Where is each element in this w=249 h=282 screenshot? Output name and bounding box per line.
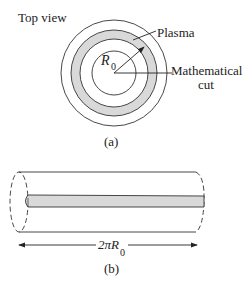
caption-a: (a) [104,134,118,149]
length-subscript: 0 [120,247,125,258]
diagram-canvas: Top view Plasma R 0 Mathematical cut (a)… [0,0,249,282]
plasma-pointer-line [133,31,156,40]
caption-b: (b) [104,261,119,276]
cut-label-line1: Mathematical [171,63,243,78]
top-view-label: Top view [18,10,67,25]
radius-label: R [100,53,110,68]
cut-label-line2: cut [198,77,214,92]
radius-subscript: 0 [111,61,116,72]
plasma-rod [26,195,205,207]
cylinder-figure: 2πR 0 (b) [10,172,204,276]
length-label: 2πR [98,237,119,252]
top-view-figure: Top view Plasma R 0 Mathematical cut (a) [18,10,243,149]
plasma-label: Plasma [157,25,195,40]
